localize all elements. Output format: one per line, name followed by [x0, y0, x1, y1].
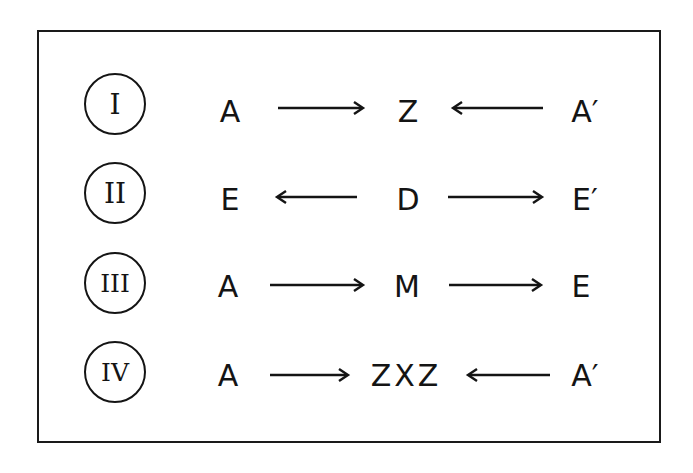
- left-node: A: [218, 358, 239, 393]
- right-node: A′: [571, 358, 599, 393]
- arrow-left-icon: [453, 102, 543, 114]
- row-4: IV A ZXZ A′: [85, 342, 599, 402]
- arrow-right-icon: [278, 102, 363, 114]
- row-numeral: III: [100, 269, 130, 298]
- arrow-right-icon: [270, 279, 363, 291]
- right-node: A′: [571, 94, 599, 129]
- row-1: I A Z A′: [85, 74, 599, 134]
- arrow-left-icon: [468, 369, 550, 381]
- center-node: Z: [398, 94, 419, 129]
- right-node: E′: [572, 182, 598, 217]
- diagram-canvas: I A Z A′ II E D E′ III A: [0, 0, 693, 473]
- left-node: A: [218, 269, 239, 304]
- row-numeral: II: [104, 177, 126, 210]
- arrow-right-icon: [270, 369, 348, 381]
- row-3: III A M E: [85, 253, 590, 313]
- arrow-right-icon: [449, 279, 541, 291]
- row-numeral: IV: [101, 358, 130, 387]
- arrow-left-icon: [277, 191, 357, 203]
- center-node: D: [396, 182, 419, 217]
- arrow-right-icon: [448, 191, 542, 203]
- row-numeral: I: [109, 88, 120, 121]
- center-node: M: [394, 269, 420, 304]
- row-2: II E D E′: [85, 163, 598, 223]
- left-node: A: [220, 94, 241, 129]
- center-node: ZXZ: [371, 358, 442, 393]
- left-node: E: [221, 182, 240, 217]
- right-node: E: [572, 269, 591, 304]
